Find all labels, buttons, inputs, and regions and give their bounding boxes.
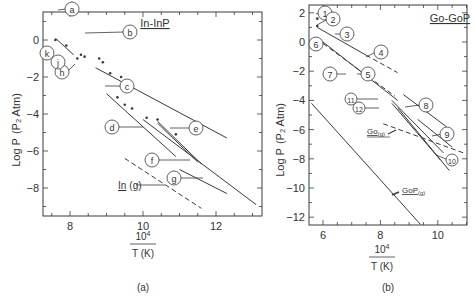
data-point: [65, 44, 68, 47]
x-tick-label: 12: [210, 220, 222, 232]
series-line-a: [55, 38, 73, 55]
annotation-in-phase: (g): [129, 180, 141, 191]
x-axis-label-denominator: T (K): [132, 248, 154, 259]
x-axis-label-denominator: T (K): [371, 261, 393, 272]
chart-title: Go-GoP: [430, 12, 470, 24]
x-tick-label: 8: [67, 220, 73, 232]
x-axis-label-num: 10: [135, 231, 147, 242]
x-axis-label-num: 10: [374, 244, 386, 255]
series-line-gop-g-: [312, 103, 421, 224]
y-tick-label: −8: [292, 153, 305, 165]
annotation-label-k: k: [45, 49, 50, 59]
chart-panel-a: 810120−2−4−6−8In-InPLog P(P₂ Atm)104T (K…: [10, 2, 262, 293]
annotation-label-d: d: [109, 123, 114, 133]
y-tick-label: −12: [286, 211, 305, 223]
y-axis-label-unit: (P₂ Atm): [10, 93, 22, 134]
data-point: [98, 57, 101, 60]
annotation-label-2: 2: [330, 15, 335, 25]
annotation-leader-line: [85, 32, 124, 33]
y-tick-label: 0: [299, 36, 305, 48]
y-tick-label: −2: [292, 65, 305, 77]
panel-label: (b): [382, 282, 394, 293]
data-point: [54, 39, 57, 42]
annotation-label-in-gas: In(g): [118, 180, 142, 191]
y-axis-label-unit: (P₂ Atm): [274, 103, 286, 144]
data-point: [175, 133, 178, 136]
data-point: [123, 103, 126, 106]
y-axis-label-main: Log P: [10, 138, 22, 167]
chart-panel-b: 681020−2−4−6−8−10−12Go-GoPLog P(P₂ Atm)1…: [274, 5, 470, 293]
data-point: [102, 61, 105, 64]
annotation-label-a: a: [69, 5, 74, 15]
annotation-label-6: 6: [313, 40, 318, 50]
annotation-label-10: 10: [448, 158, 456, 165]
panel-label: (a): [137, 282, 149, 293]
figure: 810120−2−4−6−8In-InPLog P(P₂ Atm)104T (K…: [0, 0, 474, 298]
data-point: [76, 57, 79, 60]
x-tick-label: 6: [320, 229, 326, 241]
annotation-leader-line: [405, 105, 420, 107]
data-point: [109, 72, 112, 75]
annotation-label-11: 11: [347, 97, 354, 104]
plot-frame: [309, 5, 467, 225]
y-tick-label: −6: [292, 124, 305, 136]
y-tick-label: −2: [26, 71, 39, 83]
y-tick-label: 0: [33, 34, 39, 46]
arrow-icon: [388, 130, 396, 134]
data-point: [316, 17, 319, 20]
y-tick-label: −6: [26, 145, 39, 157]
annotation-label-7: 7: [327, 70, 332, 80]
series-line-11: [392, 100, 444, 153]
annotation-go-symbol: Go: [367, 127, 378, 136]
annotation-gop-symbol: GoP: [402, 186, 418, 195]
x-axis-label-numerator: 104: [135, 230, 150, 242]
annotation-label-5: 5: [365, 70, 370, 80]
annotation-go-phase: (g): [378, 131, 385, 137]
annotation-label-gop-gas: GoP(g): [402, 186, 425, 196]
annotation-label-c: c: [125, 82, 130, 92]
annotation-label-e: e: [193, 124, 198, 134]
data-point: [131, 107, 134, 110]
chart-title: In-InP: [140, 17, 169, 29]
x-axis-label-numerator: 104: [374, 243, 389, 255]
y-tick-label: 2: [299, 7, 305, 19]
y-axis-label-main: Log P: [274, 148, 286, 177]
data-point: [145, 116, 148, 119]
data-point: [116, 96, 119, 99]
x-tick-label: 8: [377, 229, 383, 241]
y-tick-label: −8: [26, 182, 39, 194]
y-tick-label: −10: [286, 182, 305, 194]
y-tick-label: −4: [292, 94, 305, 106]
x-axis-label-exp: 4: [147, 230, 151, 237]
annotation-label-j: j: [56, 58, 59, 68]
data-point: [156, 118, 159, 121]
annotation-label-9: 9: [444, 130, 449, 140]
annotation-label-4: 4: [378, 48, 383, 58]
annotation-label-12: 12: [355, 106, 363, 113]
annotation-gop-phase: (g): [418, 190, 425, 196]
annotation-label-go-gas: Go(g): [367, 127, 385, 137]
annotation-label-3: 3: [344, 30, 349, 40]
data-point: [80, 54, 83, 57]
annotation-label-8: 8: [423, 101, 428, 111]
annotation-in-symbol: In: [118, 180, 126, 191]
y-axis-label: Log P(P₂ Atm): [274, 103, 286, 177]
data-point: [120, 76, 123, 79]
data-point: [83, 55, 86, 58]
series-line-g: [180, 170, 227, 194]
annotation-label-b: b: [127, 28, 132, 38]
x-tick-label: 10: [432, 229, 444, 241]
x-axis-label-exp: 4: [386, 243, 390, 250]
annotation-label-g: g: [171, 174, 176, 184]
y-axis-label: Log P(P₂ Atm): [10, 93, 22, 167]
y-tick-label: −4: [26, 108, 39, 120]
